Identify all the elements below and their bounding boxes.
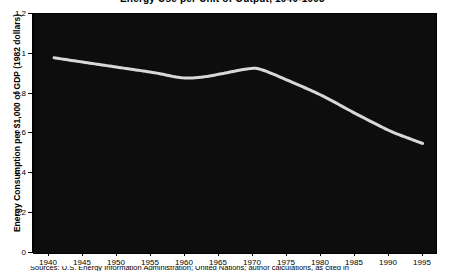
x-tick-mark-1970 <box>252 252 253 256</box>
y-tick-label-0.2: 0.2 <box>0 208 26 217</box>
data-line-svg <box>34 14 436 253</box>
chart-title-text: Energy Use per Unit of Output, 1940-1995 <box>120 0 325 4</box>
chart-title-cropped: Energy Use per Unit of Output, 1940-1995 <box>0 0 449 7</box>
x-tick-mark-1965 <box>218 252 219 256</box>
y-tick-label-0.4: 0.4 <box>0 168 26 177</box>
x-tick-mark-1985 <box>354 252 355 256</box>
chart-figure: Energy Use per Unit of Output, 1940-1995… <box>0 0 449 271</box>
y-tick-label-1: 1 <box>0 49 26 58</box>
x-tick-mark-1975 <box>286 252 287 256</box>
x-tick-mark-1995 <box>422 252 423 256</box>
source-note-text: Sources: U.S. Energy Information Adminis… <box>30 266 349 271</box>
data-series-line <box>54 58 423 144</box>
y-tick-label-0.8: 0.8 <box>0 89 26 98</box>
y-tick-label-0: 0 <box>0 248 26 257</box>
x-tick-mark-1990 <box>388 252 389 256</box>
x-tick-mark-1980 <box>320 252 321 256</box>
x-tick-mark-1955 <box>150 252 151 256</box>
y-tick-label-0.6: 0.6 <box>0 128 26 137</box>
y-tick-label-1.2: 1.2 <box>0 9 26 18</box>
y-axis-title: Energy Consumption per $1,000 of GDP (19… <box>12 3 22 243</box>
x-tick-mark-1940 <box>48 252 49 256</box>
plot-area <box>33 13 437 254</box>
x-tick-mark-1945 <box>82 252 83 256</box>
x-tick-mark-1950 <box>116 252 117 256</box>
source-note-cropped: Sources: U.S. Energy Information Adminis… <box>0 266 449 271</box>
x-tick-mark-1960 <box>184 252 185 256</box>
